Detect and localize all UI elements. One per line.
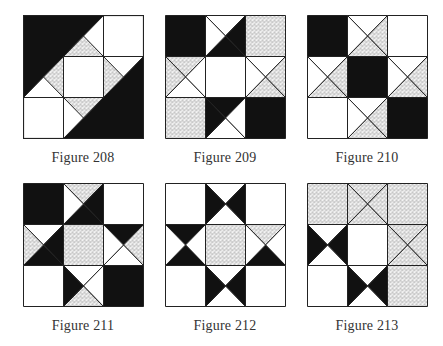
quilt-block-figure [23,15,144,139]
quilt-block-figure [165,183,286,307]
figure-caption: Figure 213 [297,318,437,334]
figure-caption: Figure 209 [155,150,295,166]
figure-caption: Figure 208 [13,150,153,166]
quilt-block-figure [23,183,144,307]
quilt-block-diagram [23,183,144,307]
quilt-block-diagram [307,15,428,139]
quilt-block-figure [165,15,286,139]
quilt-block-diagram [23,15,144,139]
quilt-block-diagram [165,183,286,307]
figure-caption: Figure 212 [155,318,295,334]
quilt-block-figure [307,15,428,139]
figure-caption: Figure 210 [297,150,437,166]
quilt-block-diagram [165,15,286,139]
figure-caption: Figure 211 [13,318,153,334]
quilt-block-figure [307,183,428,307]
quilt-block-diagram [307,183,428,307]
